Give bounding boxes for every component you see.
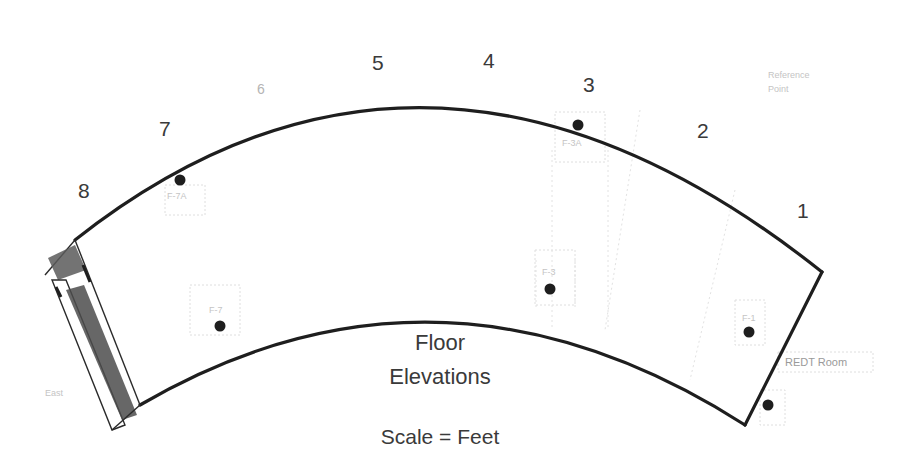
shaded-strip [66, 285, 137, 420]
point-marker-icon [545, 284, 556, 295]
point-label: F-7 [209, 305, 223, 315]
point-label: F-3A [562, 138, 582, 148]
point-marker-icon [573, 120, 584, 131]
outer-wall [75, 108, 822, 272]
point-label: F-3 [542, 267, 556, 277]
point-F-7[interactable]: F-7 [209, 305, 226, 332]
reference-label-1: Reference [768, 70, 810, 80]
reference-label-2: Point [768, 84, 789, 94]
diagram-title-line-2: Elevations [389, 364, 491, 389]
point-F-3[interactable]: F-3 [542, 267, 556, 295]
faint-grid [536, 110, 735, 380]
section-label-8: 8 [78, 179, 90, 202]
point-boxes [165, 112, 873, 425]
section-label-3: 3 [583, 73, 595, 96]
point-marker-icon [744, 327, 755, 338]
point-marker-icon [175, 175, 186, 186]
section-label-4: 4 [483, 49, 495, 72]
point-label: F-7A [167, 191, 187, 201]
point-marker-icon [763, 400, 774, 411]
room-label: REDT Room [785, 356, 847, 368]
diagram-title-line-1: Floor [415, 330, 465, 355]
point-F-7A[interactable]: F-7A [167, 175, 187, 202]
point-exterior[interactable] [763, 400, 774, 411]
left-end-label: East [45, 388, 64, 398]
section-label-1: 1 [797, 199, 809, 222]
section-label-6: 6 [257, 81, 265, 97]
point-F-1[interactable]: F-1 [742, 313, 756, 338]
point-label: F-1 [742, 313, 756, 323]
scale-label: Scale = Feet [381, 425, 500, 448]
section-label-7: 7 [159, 117, 171, 140]
shaded-block-top [48, 245, 86, 280]
left-end-structure [45, 240, 140, 430]
section-label-2: 2 [697, 119, 709, 142]
point-marker-icon [215, 321, 226, 332]
floor-elevation-diagram: 1 2 3 4 5 6 7 8 F-3A F-3 F-7A F-7 F-1 RE… [0, 0, 908, 473]
right-end-wall [745, 272, 822, 425]
section-label-5: 5 [372, 51, 384, 74]
